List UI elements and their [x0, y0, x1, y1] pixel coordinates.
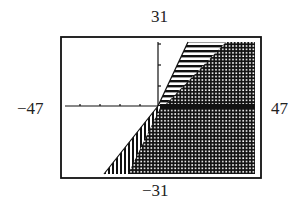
- x-axis-band: [160, 104, 255, 109]
- plot-area: [104, 42, 255, 174]
- graph-plot: [0, 0, 301, 202]
